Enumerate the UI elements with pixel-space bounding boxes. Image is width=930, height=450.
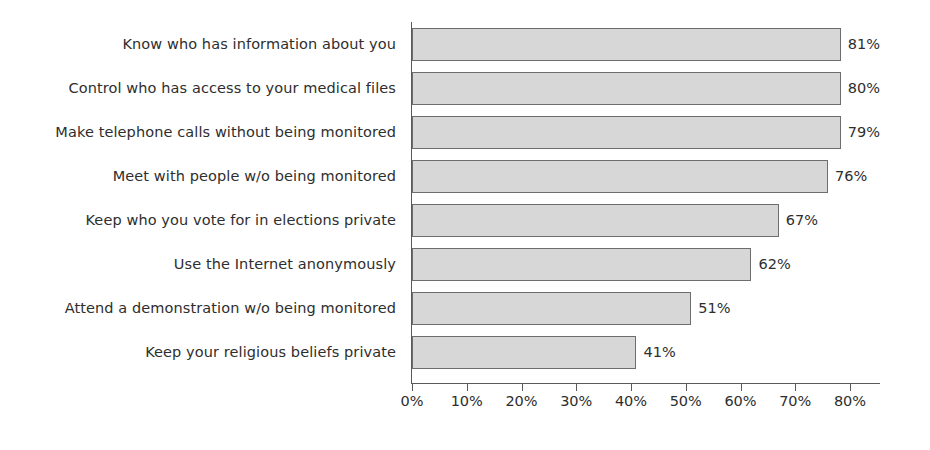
bar-value-label: 81% — [841, 37, 880, 52]
x-axis-tick-mark — [522, 384, 523, 391]
category-row: Keep your religious beliefs private — [0, 330, 405, 374]
category-row: Control who has access to your medical f… — [0, 66, 405, 110]
category-label: Keep your religious beliefs private — [145, 345, 405, 360]
category-label: Attend a demonstration w/o being monitor… — [65, 301, 405, 316]
category-label: Use the Internet anonymously — [174, 257, 405, 272]
category-label: Keep who you vote for in elections priva… — [85, 213, 405, 228]
x-axis-tick-mark — [686, 384, 687, 391]
category-label: Meet with people w/o being monitored — [113, 169, 405, 184]
x-axis-tick-label: 80% — [834, 394, 866, 409]
bar-row: 41% — [412, 330, 880, 374]
bar-row: 81% — [412, 22, 880, 66]
x-axis-tick-label: 10% — [451, 394, 483, 409]
plot-area: 81% 80% 79% 76% 67% 62% — [412, 22, 880, 384]
x-axis-ticks: 0%10%20%30%40%50%60%70%80% — [412, 384, 880, 424]
bar — [412, 160, 828, 193]
bar-row: 80% — [412, 66, 880, 110]
category-row: Know who has information about you — [0, 22, 405, 66]
x-axis-tick-mark — [850, 384, 851, 391]
category-row: Use the Internet anonymously — [0, 242, 405, 286]
bar-value-label: 51% — [691, 301, 730, 316]
category-label: Know who has information about you — [122, 37, 405, 52]
category-label: Make telephone calls without being monit… — [55, 125, 405, 140]
x-axis-tick-label: 60% — [724, 394, 756, 409]
x-axis-tick-mark — [631, 384, 632, 391]
bar-row: 79% — [412, 110, 880, 154]
x-axis-tick-label: 20% — [505, 394, 537, 409]
x-axis-tick-mark — [795, 384, 796, 391]
x-axis-tick-mark — [741, 384, 742, 391]
bar-value-label: 62% — [751, 257, 790, 272]
x-axis-tick-mark — [576, 384, 577, 391]
bar — [412, 204, 779, 237]
x-axis-tick-label: 40% — [615, 394, 647, 409]
bar-value-label: 79% — [841, 125, 880, 140]
bar — [412, 72, 841, 105]
x-axis-tick-label: 70% — [779, 394, 811, 409]
bar — [412, 116, 841, 149]
x-axis-tick-label: 0% — [400, 394, 423, 409]
bar-value-label: 67% — [779, 213, 818, 228]
x-axis-tick-mark — [412, 384, 413, 391]
bar — [412, 336, 636, 369]
bar-row: 51% — [412, 286, 880, 330]
category-row: Attend a demonstration w/o being monitor… — [0, 286, 405, 330]
x-axis-tick-label: 50% — [670, 394, 702, 409]
category-row: Keep who you vote for in elections priva… — [0, 198, 405, 242]
bar-row: 67% — [412, 198, 880, 242]
bar-row: 76% — [412, 154, 880, 198]
category-row: Make telephone calls without being monit… — [0, 110, 405, 154]
x-axis-tick-label: 30% — [560, 394, 592, 409]
x-axis-tick-mark — [467, 384, 468, 391]
bar-row: 62% — [412, 242, 880, 286]
category-axis-labels: Know who has information about you Contr… — [0, 22, 405, 374]
bar-value-label: 41% — [636, 345, 675, 360]
bar-chart: Know who has information about you Contr… — [0, 0, 930, 450]
bar-series: 81% 80% 79% 76% 67% 62% — [412, 22, 880, 374]
bar-value-label: 80% — [841, 81, 880, 96]
category-row: Meet with people w/o being monitored — [0, 154, 405, 198]
bar-value-label: 76% — [828, 169, 867, 184]
bar — [412, 28, 841, 61]
bar — [412, 248, 751, 281]
bar — [412, 292, 691, 325]
category-label: Control who has access to your medical f… — [69, 81, 405, 96]
